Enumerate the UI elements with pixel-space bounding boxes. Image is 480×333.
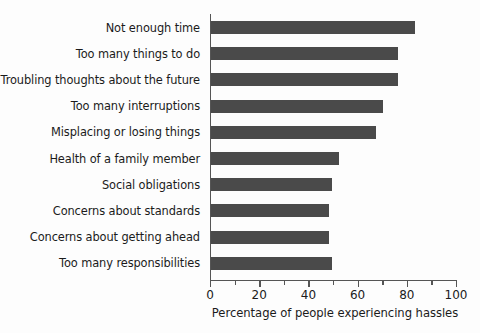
bar <box>211 21 415 34</box>
x-axis-major-tick <box>358 280 359 287</box>
bar <box>211 257 332 270</box>
x-axis-minor-tick <box>431 280 432 285</box>
category-label: Social obligations <box>102 178 200 192</box>
plot-area <box>210 14 456 276</box>
bar-chart: Not enough timeToo many things to doTrou… <box>0 0 480 333</box>
x-axis-tick-label: 60 <box>350 288 365 302</box>
x-axis-tick-label: 100 <box>445 288 468 302</box>
x-axis-major-tick <box>308 280 309 287</box>
x-axis-minor-tick <box>382 280 383 285</box>
bar <box>211 47 398 60</box>
category-label: Not enough time <box>106 21 200 35</box>
bar <box>211 73 398 86</box>
x-axis-minor-tick <box>333 280 334 285</box>
x-axis-tick-label: 20 <box>252 288 267 302</box>
x-axis-tick-label: 0 <box>206 288 214 302</box>
bar <box>211 178 332 191</box>
bar <box>211 204 329 217</box>
x-axis-major-tick <box>407 280 408 287</box>
category-label: Too many things to do <box>76 47 200 61</box>
category-label: Concerns about standards <box>53 204 200 218</box>
category-label: Troubling thoughts about the future <box>0 73 200 87</box>
category-label: Concerns about getting ahead <box>30 230 200 244</box>
category-label: Too many responsibilities <box>59 256 200 270</box>
category-label: Misplacing or losing things <box>51 125 200 139</box>
category-axis-labels: Not enough timeToo many things to doTrou… <box>0 14 205 276</box>
x-axis <box>210 280 460 282</box>
x-axis-major-tick <box>456 280 457 287</box>
x-axis-tick-label: 80 <box>399 288 414 302</box>
bar <box>211 126 376 139</box>
category-label: Too many interruptions <box>71 99 200 113</box>
category-label: Health of a family member <box>49 152 200 166</box>
x-axis-minor-tick <box>284 280 285 285</box>
x-axis-tick-labels: 020406080100 <box>210 288 470 304</box>
x-axis-tick-label: 40 <box>301 288 316 302</box>
x-axis-major-tick <box>259 280 260 287</box>
x-axis-major-tick <box>210 280 211 287</box>
x-axis-minor-tick <box>235 280 236 285</box>
bar <box>211 231 329 244</box>
bar <box>211 152 339 165</box>
bar <box>211 100 383 113</box>
x-axis-title: Percentage of people experiencing hassle… <box>210 306 460 320</box>
